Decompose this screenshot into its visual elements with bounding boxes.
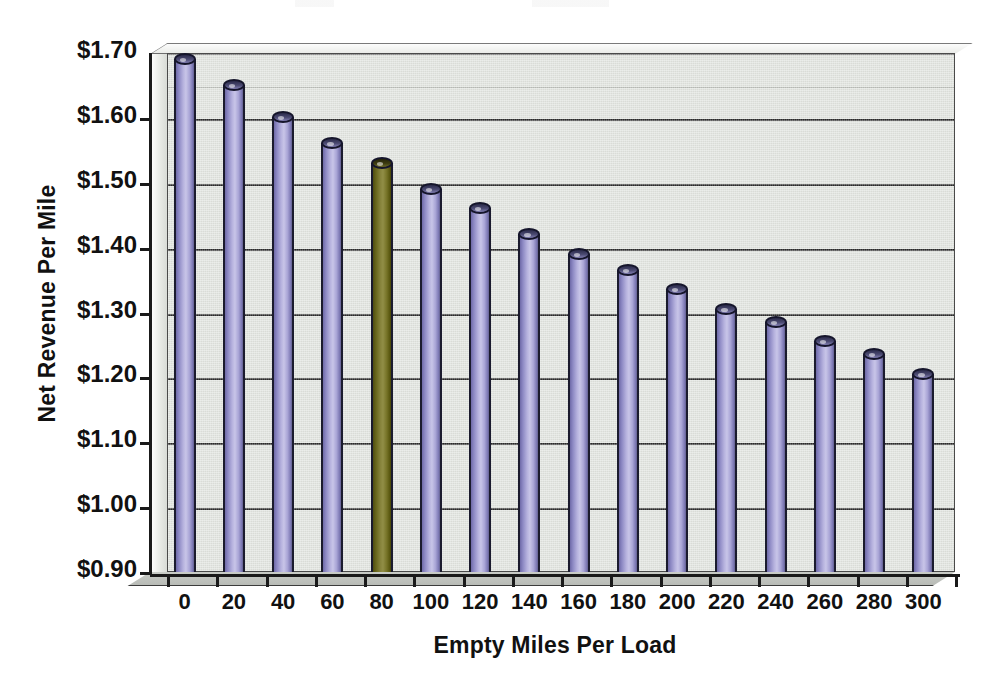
bar-cap-highlight — [180, 58, 186, 62]
bar-body — [469, 208, 491, 574]
bar-cap — [912, 368, 934, 380]
gridline-170 — [168, 54, 954, 55]
chart-figure: Net Revenue Per Mile $0.90$1.00$1.10$1.2… — [0, 0, 988, 695]
bar-cap-highlight — [426, 188, 432, 192]
bar-body — [765, 322, 787, 574]
y-tick-label: $1.00 — [17, 490, 137, 518]
x-tick-260 — [807, 574, 810, 587]
bar-cap-highlight — [869, 353, 875, 357]
bar-body — [568, 254, 590, 574]
bar-cap — [223, 79, 245, 91]
x-tick-label: 300 — [888, 589, 958, 615]
bar — [912, 368, 934, 574]
bar-cap — [568, 248, 590, 260]
bar — [174, 53, 196, 574]
y-tick-label: $1.70 — [17, 36, 137, 64]
bar — [814, 335, 836, 574]
bar-cap-highlight — [377, 162, 383, 166]
x-tick-140 — [512, 574, 515, 587]
bar-body — [814, 341, 836, 574]
bar — [420, 183, 442, 574]
bar — [666, 283, 688, 574]
x-tick-160 — [561, 574, 564, 587]
x-tick-0 — [167, 574, 170, 587]
bar-highlighted — [371, 157, 393, 574]
y-tick-label: $1.30 — [17, 296, 137, 324]
bar-cap-highlight — [327, 142, 333, 146]
y-tick-140 — [140, 248, 150, 251]
bar — [272, 111, 294, 574]
bar-cap — [715, 303, 737, 315]
y-tick-130 — [140, 313, 150, 316]
x-axis-title: Empty Miles Per Load — [150, 632, 960, 659]
bar-body — [223, 85, 245, 574]
x-tick-end — [955, 574, 958, 587]
bar-cap-highlight — [771, 321, 777, 325]
y-tick-label: $1.50 — [17, 166, 137, 194]
bar-cap-highlight — [574, 253, 580, 257]
y-tick-120 — [140, 377, 150, 380]
bar-cap — [174, 53, 196, 65]
bar — [321, 137, 343, 574]
y-tick-label: $1.20 — [17, 360, 137, 388]
x-tick-200 — [660, 574, 663, 587]
y-tick-label: $1.60 — [17, 101, 137, 129]
y-tick-label: $0.90 — [17, 555, 137, 583]
y-tick-110 — [140, 442, 150, 445]
x-tick-220 — [709, 574, 712, 587]
bar-body — [420, 189, 442, 574]
bar — [765, 316, 787, 574]
bar-body — [272, 117, 294, 574]
bar-cap-highlight — [278, 116, 284, 120]
bar-cap-highlight — [623, 269, 629, 273]
bar-cap — [371, 157, 393, 169]
bar-body — [666, 289, 688, 574]
x-tick-240 — [758, 574, 761, 587]
bar-cap — [420, 183, 442, 195]
bar — [617, 264, 639, 574]
bar — [863, 348, 885, 574]
bar-body — [518, 234, 540, 574]
bar-body — [715, 309, 737, 574]
bar — [715, 303, 737, 574]
bar-body — [174, 59, 196, 574]
bar-cap — [765, 316, 787, 328]
y-tick-090 — [140, 572, 150, 575]
bar-body — [863, 354, 885, 574]
bar-cap-highlight — [524, 233, 530, 237]
x-tick-100 — [413, 574, 416, 587]
bar-cap-highlight — [672, 288, 678, 292]
bar-cap-highlight — [229, 84, 235, 88]
bar-cap-highlight — [721, 308, 727, 312]
plot-wrapper — [150, 43, 960, 573]
x-tick-280 — [857, 574, 860, 587]
x-axis-line — [150, 574, 960, 577]
bar-body — [371, 163, 393, 574]
y-tick-150 — [140, 183, 150, 186]
bar-cap-highlight — [820, 340, 826, 344]
bar-body — [617, 270, 639, 574]
x-tick-180 — [610, 574, 613, 587]
bar — [568, 248, 590, 574]
y-tick-label: $1.10 — [17, 425, 137, 453]
plot-wall-seam — [168, 87, 954, 88]
bar-body — [912, 374, 934, 574]
bar — [223, 79, 245, 574]
x-tick-20 — [216, 574, 219, 587]
bar — [518, 228, 540, 574]
bar-body — [321, 143, 343, 574]
y-tick-160 — [140, 118, 150, 121]
x-tick-40 — [266, 574, 269, 587]
y-tick-label: $1.40 — [17, 231, 137, 259]
cropped-title-remnant — [180, 0, 820, 7]
bar-cap-highlight — [918, 373, 924, 377]
bar-cap — [617, 264, 639, 276]
x-tick-60 — [315, 574, 318, 587]
bar-cap-highlight — [475, 207, 481, 211]
x-tick-120 — [463, 574, 466, 587]
plot-side-wall — [150, 53, 168, 572]
x-tick-80 — [364, 574, 367, 587]
bar — [469, 202, 491, 574]
y-tick-100 — [140, 507, 150, 510]
x-tick-300 — [906, 574, 909, 587]
